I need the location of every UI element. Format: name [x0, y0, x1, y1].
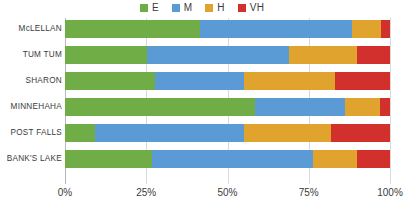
bar-segment-h[interactable] — [244, 124, 332, 142]
chart-legend: EMHVH — [0, 0, 404, 15]
bar-segment-h[interactable] — [244, 72, 335, 90]
category-label-2: SHARON — [0, 72, 62, 90]
bar-row — [65, 72, 390, 90]
legend-item-label: VH — [250, 3, 264, 13]
bar-segment-m[interactable] — [200, 20, 352, 38]
legend-swatch-icon — [238, 4, 246, 12]
legend-swatch-icon — [205, 4, 213, 12]
legend-swatch-icon — [172, 4, 180, 12]
bar-segment-e[interactable] — [65, 20, 200, 38]
bar-series-container — [65, 18, 390, 184]
category-label-4: POST FALLS — [0, 124, 62, 142]
category-label-0: McLELLAN — [0, 20, 62, 38]
bar-segment-m[interactable] — [147, 46, 289, 64]
bar-segment-h[interactable] — [345, 98, 380, 116]
legend-item-label: H — [217, 3, 224, 13]
bar-segment-vh[interactable] — [357, 46, 390, 64]
bar-segment-vh[interactable] — [331, 124, 390, 142]
bar-row — [65, 20, 390, 38]
bar-segment-m[interactable] — [152, 150, 313, 168]
bar-row — [65, 98, 390, 116]
legend-item-m[interactable]: M — [172, 3, 193, 13]
stacked-bar-chart: EMHVH McLELLANTUM TUMSHARONMINNEHAHAPOST… — [0, 0, 404, 206]
category-axis-labels: McLELLANTUM TUMSHARONMINNEHAHAPOST FALLS… — [0, 18, 62, 184]
value-axis-tick-labels: 0%25%50%75%100% — [65, 186, 390, 202]
category-label-1: TUM TUM — [0, 46, 62, 64]
legend-item-e[interactable]: E — [140, 3, 159, 13]
value-tick-label-1: 25% — [136, 186, 156, 200]
bar-segment-h[interactable] — [352, 20, 381, 38]
value-tick-label-0: 0% — [58, 186, 72, 200]
bar-segment-h[interactable] — [313, 150, 358, 168]
bar-segment-vh[interactable] — [357, 150, 390, 168]
legend-item-label: M — [184, 3, 193, 13]
bar-segment-e[interactable] — [65, 150, 152, 168]
legend-item-label: E — [152, 3, 159, 13]
gridline — [390, 18, 391, 184]
bar-row — [65, 124, 390, 142]
value-tick-label-3: 75% — [299, 186, 319, 200]
bar-row — [65, 150, 390, 168]
bar-segment-m[interactable] — [255, 98, 345, 116]
bar-segment-e[interactable] — [65, 98, 255, 116]
bar-segment-e[interactable] — [65, 46, 147, 64]
bar-row — [65, 46, 390, 64]
category-label-5: BANK'S LAKE — [0, 150, 62, 168]
bar-segment-vh[interactable] — [335, 72, 390, 90]
bar-segment-e[interactable] — [65, 72, 155, 90]
bar-segment-h[interactable] — [289, 46, 357, 64]
value-tick-label-4: 100% — [377, 186, 403, 200]
plot-area — [65, 18, 390, 184]
bar-segment-m[interactable] — [95, 124, 244, 142]
bar-segment-vh[interactable] — [381, 20, 390, 38]
legend-item-vh[interactable]: VH — [238, 3, 264, 13]
category-label-3: MINNEHAHA — [0, 98, 62, 116]
bar-segment-vh[interactable] — [380, 98, 390, 116]
bar-segment-e[interactable] — [65, 124, 95, 142]
legend-swatch-icon — [140, 4, 148, 12]
bar-segment-m[interactable] — [155, 72, 244, 90]
value-tick-label-2: 50% — [217, 186, 237, 200]
legend-item-h[interactable]: H — [205, 3, 224, 13]
